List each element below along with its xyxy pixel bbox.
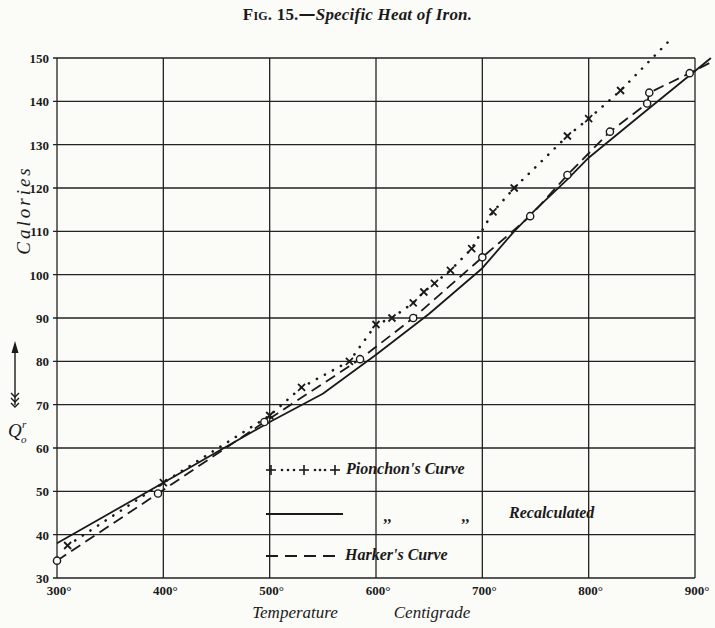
pionchon-cross-marker xyxy=(447,267,454,274)
harker-circle-marker xyxy=(53,557,60,564)
harker-circle-marker xyxy=(261,418,268,425)
y-axis-arrow-icon xyxy=(11,341,19,407)
pionchon-cross-marker xyxy=(298,384,305,391)
harker-circle-marker xyxy=(410,314,417,321)
pionchon-cross-marker xyxy=(64,542,71,549)
x-tick-label: 700° xyxy=(472,583,497,598)
series-layer xyxy=(53,36,711,564)
x-tick-label: 800° xyxy=(578,583,603,598)
legend-pionchon-swatch xyxy=(266,465,340,475)
harker-circle-marker xyxy=(606,128,613,135)
x-tick-label: 400° xyxy=(153,583,178,598)
harker-circle-marker xyxy=(356,356,363,363)
pionchon-cross-marker xyxy=(410,299,417,306)
harker-circle-marker xyxy=(479,254,486,261)
x-axis-label-centigrade: Centigrade xyxy=(394,603,471,622)
y-tick-label: 100 xyxy=(30,268,50,283)
y-tick-label: 90 xyxy=(36,311,49,326)
harker-circle-marker xyxy=(644,100,651,107)
harker-circle-marker xyxy=(527,213,534,220)
x-tick-label: 900° xyxy=(685,583,710,598)
x-tick-labels: 300°400°500°600°700°800°900° xyxy=(47,583,710,598)
y-tick-label: 70 xyxy=(36,398,49,413)
legend-ditto-2: ,, xyxy=(461,508,470,525)
x-axis-label-temperature: Temperature xyxy=(252,603,338,622)
legend-ditto-1: ,, xyxy=(383,508,392,525)
y-axis-label: Calories xyxy=(13,165,34,254)
pionchon-cross-marker xyxy=(617,87,624,94)
legend-harker-label: Harker's Curve xyxy=(344,546,448,563)
y-tick-label: 150 xyxy=(30,51,50,66)
x-tick-label: 600° xyxy=(366,583,391,598)
x-tick-label: 300° xyxy=(47,583,72,598)
y-tick-labels: 30405060708090100110120130140150 xyxy=(30,51,50,586)
legend-pionchon-label: Pionchon's Curve xyxy=(345,460,465,477)
harker-circle-marker xyxy=(686,70,693,77)
y-tick-label: 80 xyxy=(36,354,49,369)
legend-recalculated-label: Recalculated xyxy=(508,504,595,521)
chart-canvas: 30405060708090100110120130140150 300°400… xyxy=(0,0,715,628)
y-tick-label: 40 xyxy=(36,528,49,543)
pionchon-cross-marker xyxy=(564,133,571,140)
x-tick-label: 500° xyxy=(259,583,284,598)
harker-circle-marker xyxy=(564,171,571,178)
harker-circle-marker xyxy=(154,490,161,497)
pionchon-cross-marker xyxy=(431,280,438,287)
y-axis-symbol-sub: o xyxy=(21,433,27,445)
y-tick-label: 60 xyxy=(36,441,49,456)
pionchon-cross-marker xyxy=(420,289,427,296)
y-tick-label: 130 xyxy=(30,138,50,153)
pionchon-cross-marker xyxy=(468,245,475,252)
y-axis-symbol: Q xyxy=(8,420,22,441)
y-axis-symbol-sup: r xyxy=(22,418,27,430)
y-tick-label: 140 xyxy=(30,94,50,109)
legend: Pionchon's Curve ,, ,, Recalculated Hark… xyxy=(266,460,595,563)
y-tick-label: 50 xyxy=(36,484,49,499)
harker-circle-marker xyxy=(646,89,653,96)
